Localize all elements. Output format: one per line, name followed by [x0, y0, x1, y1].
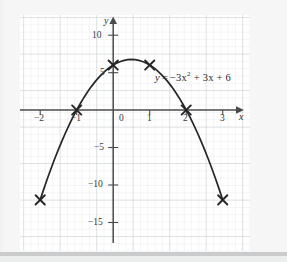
x-tick-label-3: 3 — [220, 113, 225, 123]
page-left-edge — [0, 0, 3, 252]
y-tick-label--15: −15 — [88, 217, 103, 227]
equation-exponent: 2 — [187, 70, 191, 78]
point-marker — [145, 60, 154, 69]
page-bottom-shadow-2 — [0, 256, 287, 262]
equation-annotation: y=−3x2+ 3x+ 6 — [155, 70, 231, 83]
x-tick-label--2: −2 — [34, 113, 44, 123]
equation-lhs: y — [155, 72, 160, 83]
y-tick-label--5: −5 — [94, 142, 104, 152]
x-tick-label--1: −1 — [71, 113, 81, 123]
equation-equals: = — [162, 72, 168, 83]
x-tick-label-1: 1 — [147, 113, 152, 123]
page-canvas: −2 −1 0 1 2 3 10 5 −5 −10 −15 y x y=−3x2… — [0, 0, 287, 262]
equation-term2: + 3x — [194, 72, 214, 83]
point-marker — [218, 195, 227, 204]
point-marker — [36, 195, 45, 204]
x-tick-label-2: 2 — [183, 113, 188, 123]
graph-plot — [20, 15, 250, 251]
y-tick-label-10: 10 — [92, 30, 102, 40]
y-axis — [108, 17, 118, 244]
x-axis-label: x — [239, 111, 243, 122]
y-tick-label--10: −10 — [88, 179, 103, 189]
y-axis-label: y — [104, 15, 108, 26]
equation-term3: + 6 — [217, 72, 231, 83]
y-tick-label-5: 5 — [100, 67, 105, 77]
x-axis — [20, 106, 244, 115]
equation-term1: −3x — [170, 72, 187, 83]
x-tick-label-0: 0 — [119, 113, 124, 123]
graph-figure: −2 −1 0 1 2 3 10 5 −5 −10 −15 y x y=−3x2… — [20, 15, 250, 251]
